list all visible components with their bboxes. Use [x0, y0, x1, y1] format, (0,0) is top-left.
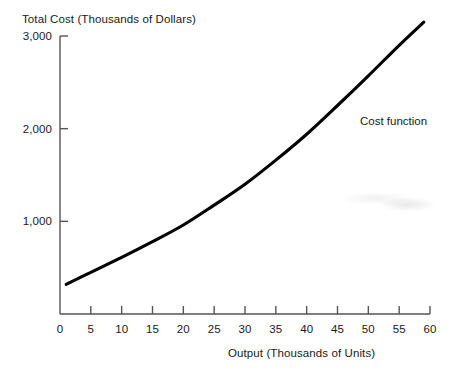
y-axis-tick-label: 1,000: [23, 215, 52, 227]
x-axis-tick-label: 25: [208, 323, 221, 335]
y-axis-ticks: [60, 36, 68, 221]
x-axis-tick-label: 10: [115, 323, 128, 335]
x-axis-ticks: [91, 306, 430, 314]
cost-function-curve: [66, 22, 424, 284]
x-axis-tick-label: 40: [300, 323, 313, 335]
x-axis-tick-label: 30: [239, 323, 252, 335]
x-axis-tick-label: 60: [424, 323, 437, 335]
x-axis-tick-label: 55: [393, 323, 406, 335]
y-axis-tick-label: 2,000: [23, 123, 52, 135]
x-axis-tick-label: 35: [269, 323, 282, 335]
x-axis-title: Output (Thousands of Units): [228, 347, 375, 359]
x-axis-tick-label: 20: [177, 323, 190, 335]
x-axis-tick-label: 15: [146, 323, 159, 335]
cost-function-chart: Total Cost (Thousands of Dollars) 1,0002…: [0, 0, 454, 374]
x-axis-tick-label: 45: [331, 323, 344, 335]
cost-function-annotation: Cost function: [360, 115, 427, 127]
x-axis-tick-label: 50: [362, 323, 375, 335]
y-axis-tick-label: 3,000: [23, 30, 52, 42]
axis-lines: [60, 36, 430, 314]
x-axis-tick-label: 5: [88, 323, 95, 335]
plot-area: [0, 0, 454, 374]
x-axis-tick-label: 0: [57, 323, 64, 335]
